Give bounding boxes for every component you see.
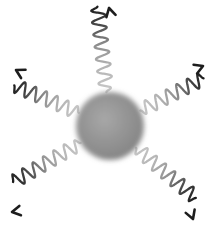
figure-canvas: Nanoparticle emitting five wavy radiatio… xyxy=(0,0,214,229)
central-sphere xyxy=(76,92,144,160)
radiating-sphere-figure xyxy=(0,0,214,229)
central-sphere-group xyxy=(76,92,144,160)
